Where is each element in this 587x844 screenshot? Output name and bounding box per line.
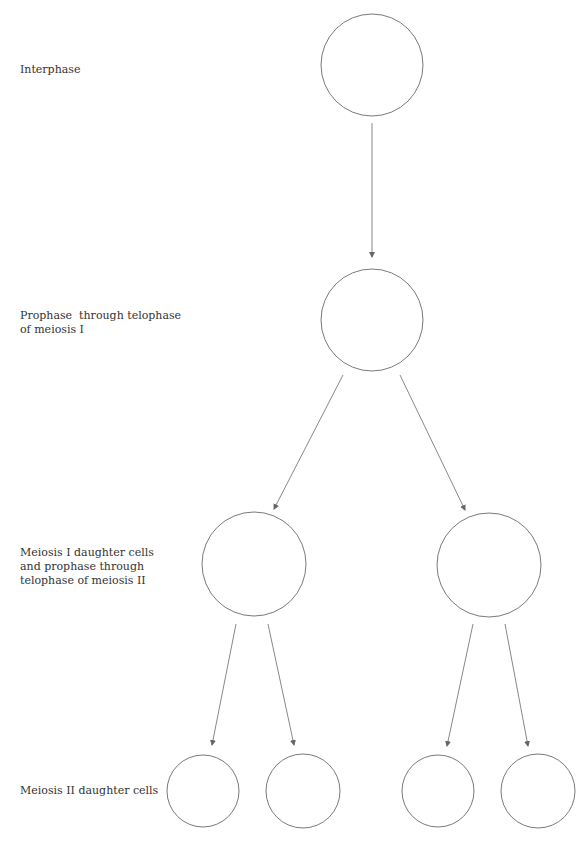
cell-meiosis-1-daughter-left bbox=[202, 512, 306, 616]
cell-interphase bbox=[321, 14, 423, 116]
cell-meiosis-2-daughter-4 bbox=[501, 754, 575, 828]
cell-meiosis-2-daughter-1 bbox=[167, 755, 239, 827]
arrow-left-to-daughter-1 bbox=[212, 624, 236, 745]
arrow-right-to-daughter-4 bbox=[505, 624, 528, 746]
arrow-meiosis-1-to-right bbox=[400, 375, 465, 510]
cell-meiosis-1-daughter-right bbox=[437, 513, 541, 617]
cell-meiosis-2-daughter-3 bbox=[402, 755, 474, 827]
meiosis-diagram bbox=[0, 0, 587, 844]
cell-meiosis-1 bbox=[321, 269, 423, 371]
arrow-meiosis-1-to-left bbox=[274, 375, 343, 509]
arrow-left-to-daughter-2 bbox=[268, 624, 294, 745]
cell-meiosis-2-daughter-2 bbox=[266, 754, 340, 828]
arrow-right-to-daughter-3 bbox=[447, 624, 473, 746]
